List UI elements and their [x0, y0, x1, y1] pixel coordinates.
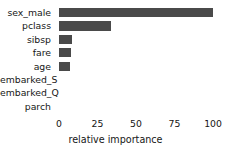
bar-row	[59, 46, 213, 59]
y-axis-tick-label: sex_male	[0, 6, 55, 19]
bar	[59, 62, 70, 71]
bar-row	[59, 73, 213, 86]
y-axis-tick-label: pclass	[0, 19, 55, 32]
bar-row	[59, 60, 213, 73]
bar	[59, 21, 111, 30]
bar-row	[59, 100, 213, 113]
bar-row	[59, 33, 213, 46]
x-axis-tick-label: 25	[92, 118, 104, 129]
y-axis-tick-label: age	[0, 60, 55, 73]
bar	[59, 35, 72, 44]
plot-area	[59, 6, 213, 113]
x-axis-tick-label: 75	[169, 118, 181, 129]
bar-chart: sex_male pclass sibsp fare age embarked_…	[0, 0, 231, 153]
bar	[59, 48, 71, 57]
x-axis-ticks: 0 25 50 75 100	[59, 118, 213, 130]
chart-title	[0, 0, 231, 2]
y-axis-tick-label: embarked_Q	[0, 86, 55, 99]
bar-row	[59, 6, 213, 19]
x-axis-tick-label: 100	[204, 118, 222, 129]
y-axis-labels: sex_male pclass sibsp fare age embarked_…	[0, 6, 55, 113]
y-axis-tick-label: parch	[0, 100, 55, 113]
x-axis-title: relative importance	[0, 134, 231, 145]
y-axis-tick-label: embarked_S	[0, 73, 55, 86]
bar	[59, 8, 213, 17]
x-axis-tick-label: 50	[130, 118, 142, 129]
bar-row	[59, 19, 213, 32]
y-axis-tick-label: sibsp	[0, 33, 55, 46]
bar-row	[59, 86, 213, 99]
x-axis-tick-label: 0	[56, 118, 62, 129]
y-axis-tick-label: fare	[0, 46, 55, 59]
